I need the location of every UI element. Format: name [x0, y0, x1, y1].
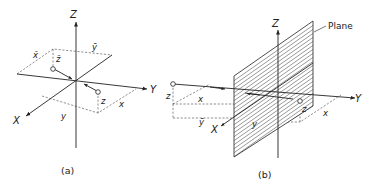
- z-bar-label: z̄: [55, 54, 61, 64]
- y-bar-label: ȳ: [91, 42, 98, 52]
- plane: [225, 17, 325, 187]
- plane-label: Plane: [328, 21, 353, 31]
- z-axis-label: Z: [271, 18, 280, 29]
- vector-from-point-1: [54, 69, 72, 79]
- point-reflected: [298, 99, 303, 104]
- x-axis-label: X: [210, 124, 219, 135]
- diagram-canvas: Z Y X x̄ ȳ z̄ z x y (a): [0, 0, 371, 189]
- z-left-label: z: [165, 91, 171, 101]
- z-axis-label: Z: [69, 9, 78, 20]
- z-label: z: [100, 96, 106, 106]
- vector-from-point-2: [84, 84, 97, 91]
- dashed-left-box: [173, 84, 234, 104]
- x-label: x: [197, 94, 204, 104]
- y-axis-label: Y: [355, 93, 362, 104]
- y-label: y: [251, 119, 258, 129]
- dashed-left-diag: [173, 84, 210, 104]
- x-label: x: [118, 99, 125, 109]
- z-right-label: z: [301, 104, 307, 114]
- dashed-box-top-left: [17, 49, 112, 74]
- figure-a: Z Y X x̄ ȳ z̄ z x y (a): [12, 9, 157, 176]
- x-axis: [221, 117, 234, 126]
- x-axis-label: X: [12, 115, 21, 126]
- plane-leader-line: [314, 26, 326, 32]
- point-original: [96, 90, 101, 95]
- point-inverted: [51, 67, 56, 72]
- x-right-label: x: [322, 108, 329, 118]
- x-bar-label: x̄: [32, 50, 39, 60]
- y-bar-label: ȳ: [198, 117, 205, 127]
- point-original: [171, 82, 176, 87]
- caption-b: (b): [258, 169, 271, 180]
- figure-b: Z Y X Plane z x ȳ y z x (b): [165, 17, 362, 187]
- x-axis: [26, 55, 112, 116]
- caption-a: (a): [61, 165, 74, 176]
- y-axis-label: Y: [150, 84, 157, 95]
- y-label: y: [60, 111, 67, 121]
